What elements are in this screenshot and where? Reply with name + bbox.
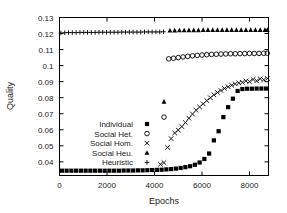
data-point — [212, 138, 216, 142]
data-point — [84, 169, 88, 173]
legend-label: Individual — [99, 120, 133, 129]
data-point — [172, 28, 177, 33]
data-point — [179, 166, 183, 170]
data-point — [112, 169, 116, 173]
data-point — [145, 168, 149, 172]
data-point — [201, 27, 206, 32]
data-point — [131, 168, 135, 172]
data-point — [198, 160, 202, 164]
legend-marker — [145, 131, 150, 136]
data-point — [255, 86, 259, 90]
data-point — [177, 28, 182, 33]
data-point — [190, 54, 195, 59]
y-axis-label: Quality — [5, 81, 15, 110]
series-social-het — [162, 51, 270, 119]
data-point — [195, 53, 200, 58]
data-point — [259, 86, 263, 90]
data-point — [220, 27, 225, 32]
data-point — [219, 52, 224, 57]
data-point — [225, 27, 230, 32]
data-point — [182, 28, 187, 33]
data-point — [233, 51, 238, 56]
data-point — [169, 167, 173, 171]
data-point — [200, 53, 205, 58]
plot-frame — [60, 18, 269, 176]
legend-marker — [145, 160, 150, 165]
data-point — [183, 165, 187, 169]
data-point — [93, 169, 97, 173]
data-point — [206, 27, 211, 32]
data-point — [155, 168, 159, 172]
legend-label: Social Heu. — [92, 149, 133, 158]
data-point — [231, 97, 235, 101]
data-point — [208, 95, 213, 100]
data-point — [229, 27, 234, 32]
data-point — [168, 28, 173, 33]
data-point — [258, 27, 263, 32]
legend-item: Social Hom. — [90, 139, 149, 148]
x-tick-label: 0 — [57, 181, 62, 190]
data-point — [162, 99, 167, 104]
data-point — [245, 87, 249, 91]
data-point — [79, 169, 83, 173]
data-point — [196, 28, 201, 33]
data-point — [160, 168, 164, 172]
data-point — [240, 87, 244, 91]
data-point — [236, 89, 240, 93]
x-axis-ticks — [60, 18, 250, 176]
x-axis-label: Epochs — [149, 196, 180, 206]
y-tick-label: 0.1 — [42, 62, 54, 71]
series-heuristic — [59, 29, 166, 35]
legend-item: Individual — [99, 120, 149, 129]
chart-legend: IndividualSocial Het.Social Hom.Social H… — [90, 120, 150, 167]
quality-vs-epochs-scatter-plot: 02000400060008000 0.040.050.060.070.080.… — [0, 0, 287, 213]
data-point — [103, 169, 107, 173]
data-point — [141, 168, 145, 172]
data-point — [215, 27, 220, 32]
data-point — [221, 115, 225, 119]
data-point — [164, 167, 168, 171]
data-point — [183, 120, 188, 125]
x-axis-tick-labels: 02000400060008000 — [57, 181, 259, 190]
data-point — [217, 129, 221, 133]
data-point — [69, 169, 73, 173]
data-point — [117, 169, 121, 173]
data-point — [239, 27, 244, 32]
data-point — [150, 168, 154, 172]
series-social-heu — [162, 27, 270, 103]
y-tick-label: 0.13 — [38, 14, 54, 23]
y-tick-label: 0.11 — [39, 46, 55, 55]
data-point — [126, 168, 130, 172]
data-point — [188, 164, 192, 168]
legend-marker — [145, 122, 149, 126]
data-point — [242, 51, 247, 56]
data-point — [107, 169, 111, 173]
data-point — [191, 28, 196, 33]
data-point — [65, 169, 69, 173]
data-point — [162, 115, 167, 120]
data-point — [74, 169, 78, 173]
data-point — [166, 57, 171, 62]
x-tick-label: 2000 — [98, 181, 116, 190]
data-point — [252, 51, 257, 56]
data-point — [244, 27, 249, 32]
data-point — [122, 168, 126, 172]
data-point — [248, 27, 253, 32]
y-tick-label: 0.08 — [38, 94, 54, 103]
data-point — [210, 27, 215, 32]
data-point — [264, 86, 268, 90]
legend-label: Heuristic — [102, 158, 133, 167]
y-tick-label: 0.07 — [38, 110, 54, 119]
data-point — [223, 52, 228, 57]
y-tick-label: 0.05 — [38, 142, 54, 151]
data-point — [250, 87, 254, 91]
data-point — [204, 52, 209, 57]
x-tick-label: 4000 — [146, 181, 164, 190]
x-tick-label: 6000 — [193, 181, 211, 190]
data-point — [187, 28, 192, 33]
data-point — [247, 51, 252, 56]
chart-figure: 02000400060008000 0.040.050.060.070.080.… — [0, 0, 287, 213]
data-point — [202, 157, 206, 161]
data-point — [181, 55, 186, 60]
data-point — [169, 136, 174, 141]
